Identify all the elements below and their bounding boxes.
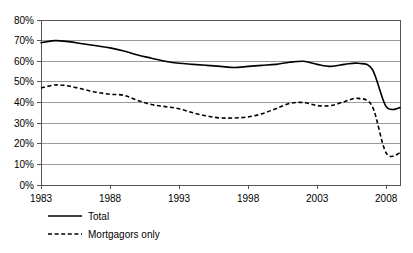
chart-canvas: 0%10%20%30%40%50%60%70%80% 1983198819931… xyxy=(0,0,413,253)
y-tick-label-10%: 10% xyxy=(14,159,34,170)
series-line-mortgagors-only xyxy=(41,85,400,157)
x-tick-label-1993: 1993 xyxy=(168,193,191,204)
x-tick-label-1998: 1998 xyxy=(237,193,260,204)
y-tick-label-80%: 80% xyxy=(14,15,34,26)
y-tick-label-30%: 30% xyxy=(14,118,34,129)
x-axis-ticks xyxy=(41,185,386,189)
x-tick-label-1983: 1983 xyxy=(30,193,53,204)
y-tick-label-40%: 40% xyxy=(14,97,34,108)
legend-label: Mortgagors only xyxy=(88,229,160,240)
x-tick-label-1988: 1988 xyxy=(99,193,122,204)
line-chart: 0%10%20%30%40%50%60%70%80% 1983198819931… xyxy=(0,0,413,253)
legend-item-mortgagors-only: Mortgagors only xyxy=(48,229,160,240)
y-tick-label-50%: 50% xyxy=(14,76,34,87)
x-axis-tick-labels: 198319881993199820032008 xyxy=(30,193,398,204)
y-tick-label-60%: 60% xyxy=(14,56,34,67)
y-tick-label-70%: 70% xyxy=(14,35,34,46)
legend-label: Total xyxy=(88,211,109,222)
series-line-total xyxy=(41,41,400,110)
x-tick-label-2008: 2008 xyxy=(375,193,398,204)
y-axis-tick-labels: 0%10%20%30%40%50%60%70%80% xyxy=(14,15,34,191)
legend-item-total: Total xyxy=(48,211,109,222)
y-tick-label-20%: 20% xyxy=(14,138,34,149)
x-tick-label-2003: 2003 xyxy=(306,193,329,204)
y-tick-label-0%: 0% xyxy=(20,180,35,191)
legend: TotalMortgagors only xyxy=(48,211,160,240)
